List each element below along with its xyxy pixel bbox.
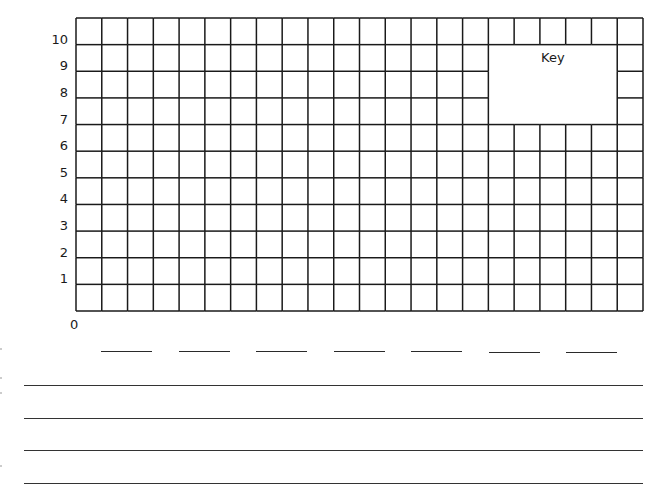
- key-title: Key: [541, 51, 565, 65]
- y-axis-label: 2: [40, 246, 68, 260]
- y-axis-label: 4: [40, 192, 68, 206]
- y-axis-label: 1: [40, 272, 68, 286]
- category-blank[interactable]: [101, 351, 152, 352]
- category-blank[interactable]: [489, 352, 540, 353]
- y-axis-label: 9: [40, 59, 68, 73]
- blank-graph-grid: [0, 0, 672, 502]
- origin-label: 0: [70, 318, 78, 332]
- edge-mark: [0, 377, 2, 379]
- answer-line[interactable]: [24, 483, 643, 484]
- answer-line[interactable]: [24, 385, 643, 386]
- y-axis-label: 6: [40, 139, 68, 153]
- edge-mark: [0, 465, 2, 467]
- y-axis-label: 7: [40, 113, 68, 127]
- category-blank[interactable]: [411, 351, 462, 352]
- category-blank[interactable]: [179, 351, 230, 352]
- answer-line[interactable]: [24, 418, 643, 419]
- y-axis-label: 3: [40, 219, 68, 233]
- y-axis-label: 10: [40, 33, 68, 47]
- y-axis-label: 8: [40, 86, 68, 100]
- category-blank[interactable]: [256, 351, 307, 352]
- edge-mark: [0, 348, 2, 350]
- category-blank[interactable]: [334, 351, 385, 352]
- category-blank[interactable]: [566, 352, 617, 353]
- y-axis-label: 5: [40, 166, 68, 180]
- answer-line[interactable]: [24, 450, 643, 451]
- edge-mark: [0, 392, 2, 394]
